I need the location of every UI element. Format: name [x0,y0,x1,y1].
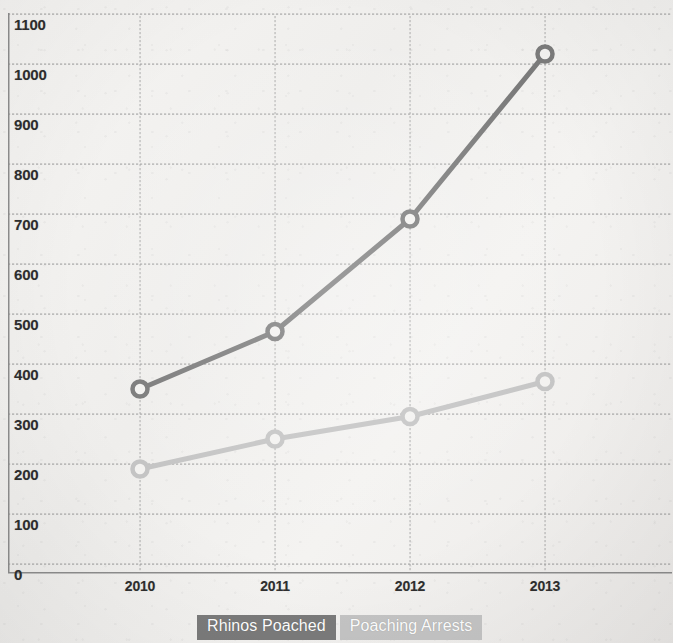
x-axis-tick-label: 2012 [390,578,430,594]
series-lines [140,54,545,469]
y-axis-tick-label: 200 [14,466,38,483]
legend-item-rhinos-poached[interactable]: Rhinos Poached [197,615,336,640]
y-axis-tick-label: 600 [14,266,38,283]
line-chart: 110010009008007006005004003002001000 201… [0,0,673,643]
legend-item-poaching-arrests[interactable]: Poaching Arrests [340,615,483,640]
y-axis-tick-label: 1100 [14,16,46,33]
y-axis-tick-label: 300 [14,416,38,433]
y-axis-tick-label: 100 [14,516,38,533]
series-markers [133,47,553,477]
x-axis-tick-label: 2010 [120,578,160,594]
y-axis-tick-label: 1000 [14,66,47,83]
vertical-gridlines [140,14,546,572]
chart-canvas [0,0,673,643]
y-axis-tick-label: 500 [14,316,38,333]
x-axis-tick-label: 2011 [255,578,295,594]
axis-lines [8,13,672,574]
y-axis-tick-label: 400 [14,366,38,383]
horizontal-gridlines [9,14,672,565]
chart-legend: Rhinos Poached Poaching Arrests [197,615,482,640]
x-axis-tick-label: 2013 [525,578,565,594]
y-axis-tick-label: 0 [14,566,22,583]
y-axis-tick-label: 800 [14,166,38,183]
y-axis-tick-label: 700 [14,216,38,233]
y-axis-tick-label: 900 [14,116,38,133]
